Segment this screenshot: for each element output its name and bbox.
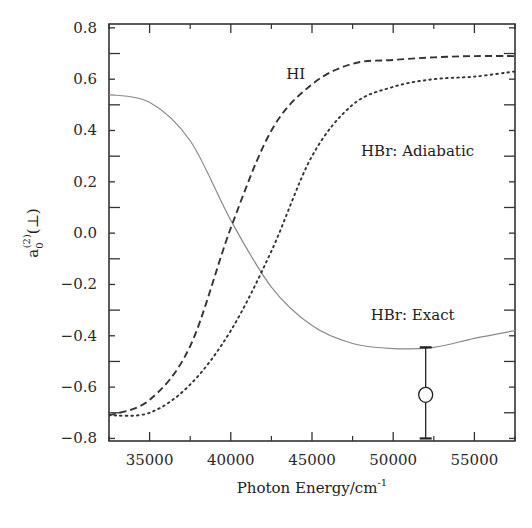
y-tick-label: 0.0 bbox=[73, 224, 97, 242]
y-tick-label: 0.6 bbox=[73, 70, 97, 88]
annotation-label: HBr: Exact bbox=[371, 306, 455, 324]
y-tick-label: 0.2 bbox=[73, 173, 97, 191]
y-tick-label: −0.8 bbox=[61, 429, 97, 447]
y-tick-label: 0.8 bbox=[73, 19, 97, 37]
y-axis-title: a0(2)(⊥) bbox=[21, 208, 45, 257]
experimental-point-marker bbox=[419, 387, 433, 402]
series-line-hi bbox=[109, 56, 515, 415]
annotation-label: HI bbox=[286, 65, 305, 83]
y-tick-label: 0.4 bbox=[73, 121, 97, 139]
x-tick-label: 55000 bbox=[451, 451, 499, 469]
x-tick-label: 45000 bbox=[288, 451, 336, 469]
chart: 35000400004500050000550000.80.60.40.20.0… bbox=[0, 0, 532, 528]
x-tick-label: 35000 bbox=[126, 451, 174, 469]
x-tick-label: 50000 bbox=[369, 451, 417, 469]
x-tick-label: 40000 bbox=[207, 451, 255, 469]
y-tick-label: −0.6 bbox=[61, 378, 97, 396]
y-tick-label: −0.2 bbox=[61, 275, 97, 293]
x-axis-title: Photon Energy/cm-1 bbox=[237, 477, 387, 497]
annotation-label: HBr: Adiabatic bbox=[361, 142, 474, 160]
series-line-hbr-adiabatic bbox=[109, 71, 515, 415]
y-tick-label: −0.4 bbox=[61, 327, 97, 345]
plot-frame bbox=[109, 24, 515, 441]
